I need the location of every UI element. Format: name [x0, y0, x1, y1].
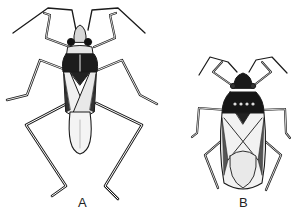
insect-figure — [0, 0, 293, 214]
panel-label-b: B — [239, 196, 248, 209]
insect-a-illustration — [7, 8, 157, 199]
panel-label-a: A — [78, 196, 87, 209]
insect-b-illustration — [192, 57, 290, 190]
